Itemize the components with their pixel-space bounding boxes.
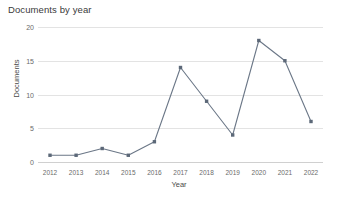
data-point-2013 [74, 154, 77, 157]
series-line [50, 41, 311, 156]
x-tick-label-2015: 2015 [121, 169, 135, 176]
documents-by-year-chart: Documents by year Documents 05101520 201… [0, 0, 339, 197]
data-point-2014 [101, 147, 104, 150]
gridline-0: 0 [38, 162, 323, 163]
y-tick-label-20: 20 [26, 24, 34, 31]
plot-area: 05101520 2012201320142015201620172018201… [38, 27, 323, 162]
data-point-2019 [231, 133, 234, 136]
y-tick-label-0: 0 [30, 159, 34, 166]
y-tick-label-10: 10 [26, 91, 34, 98]
chart-title: Documents by year [8, 4, 92, 15]
x-tick-label-2022: 2022 [304, 169, 318, 176]
x-tick-label-2016: 2016 [147, 169, 161, 176]
y-axis-title: Documents [12, 49, 21, 109]
data-point-2016 [153, 140, 156, 143]
x-tick-label-2017: 2017 [173, 169, 187, 176]
data-point-2022 [309, 120, 312, 123]
x-tick-label-2013: 2013 [69, 169, 83, 176]
x-tick-label-2019: 2019 [225, 169, 239, 176]
data-point-2021 [283, 59, 286, 62]
y-tick-label-5: 5 [30, 125, 34, 132]
data-point-2012 [48, 154, 51, 157]
series-markers [48, 39, 312, 157]
x-tick-label-2021: 2021 [278, 169, 292, 176]
y-tick-label-15: 15 [26, 57, 34, 64]
line-series-documents [38, 27, 323, 162]
x-axis-title: Year [34, 180, 324, 189]
data-point-2020 [257, 39, 260, 42]
data-point-2018 [205, 100, 208, 103]
x-tick-label-2018: 2018 [199, 169, 213, 176]
x-tick-label-2020: 2020 [252, 169, 266, 176]
x-tick-label-2014: 2014 [95, 169, 109, 176]
x-tick-label-2012: 2012 [43, 169, 57, 176]
data-point-2017 [179, 66, 182, 69]
data-point-2015 [127, 154, 130, 157]
